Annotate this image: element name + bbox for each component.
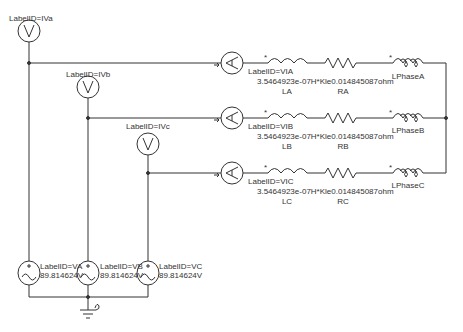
- inductor-la: [268, 59, 307, 64]
- ammeter-vib[interactable]: [221, 107, 243, 129]
- source-label-vb: LabelID=VB: [100, 262, 143, 271]
- source-value-vb: 89.814624V: [100, 271, 143, 280]
- ammeter-vic[interactable]: [221, 162, 243, 184]
- ground-icon: [80, 304, 99, 318]
- voltmeter-label-iva: LabelID=IVa: [9, 14, 53, 23]
- svg-text:*: *: [389, 53, 392, 62]
- svg-text:*: *: [389, 163, 392, 172]
- inductor-lc: [268, 169, 307, 174]
- ammeter-label-vic: LabelID=VIC: [248, 177, 294, 186]
- load-label-lphaseb: LPhaseB: [392, 126, 424, 135]
- schematic-canvas: ** ** **: [0, 0, 463, 332]
- load-label-lphasec: LPhaseC: [392, 181, 425, 190]
- ammeter-label-via: LabelID=VIA: [248, 67, 293, 76]
- source-label-va: LabelID=VA: [40, 262, 82, 271]
- resistor-label-ra: RA: [337, 87, 348, 96]
- voltmeter-ivb[interactable]: [77, 76, 99, 98]
- load-label-lphasea: LPhaseA: [392, 72, 424, 81]
- voltmeter-label-ivb: LabelID=IVb: [66, 70, 110, 79]
- resistor-rb: [325, 113, 356, 123]
- inductor-lb: [268, 114, 307, 119]
- ammeter-via[interactable]: [221, 52, 243, 74]
- source-value-va: 89.814624V: [40, 271, 83, 280]
- source-label-vc: LabelID=VC: [159, 262, 202, 271]
- source-va[interactable]: [18, 261, 40, 285]
- inductor-label-lc: LC: [282, 197, 292, 206]
- inductor-lphaseb: [393, 114, 423, 123]
- voltmeter-iva[interactable]: [18, 20, 40, 42]
- svg-text:*: *: [264, 108, 267, 117]
- inductor-label-lb: LB: [282, 142, 292, 151]
- param-c: 3.5464923e-07H*Kle0.014845087ohm: [257, 187, 394, 196]
- source-value-vc: 89.814624V: [159, 271, 202, 280]
- svg-text:*: *: [389, 108, 392, 117]
- svg-text:*: *: [264, 163, 267, 172]
- voltmeter-ivc[interactable]: [137, 133, 159, 155]
- resistor-ra: [325, 58, 356, 68]
- inductor-label-la: LA: [282, 87, 292, 96]
- inductor-lphasea: [393, 59, 423, 68]
- param-a: 3.5464923e-07H*Kle0.014845087ohm: [257, 77, 394, 86]
- resistor-label-rc: RC: [337, 197, 349, 206]
- inductor-lphasec: [393, 169, 423, 178]
- voltmeter-label-ivc: LabelID=IVc: [126, 122, 170, 131]
- resistor-label-rb: RB: [337, 142, 348, 151]
- ammeter-label-vib: LabelID=VIB: [248, 122, 293, 131]
- resistor-rc: [325, 168, 356, 178]
- param-b: 3.5464923e-07H*Kle0.014845087ohm: [257, 132, 394, 141]
- svg-text:*: *: [264, 53, 267, 62]
